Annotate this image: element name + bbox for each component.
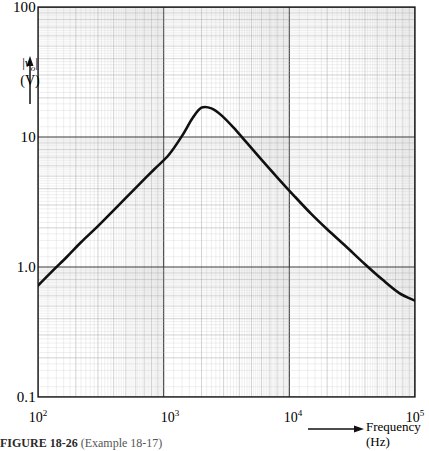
y-axis-title-symbol: |vo|	[2, 56, 58, 73]
x-axis-arrow	[308, 426, 364, 433]
x-axis-title: Frequency (Hz)	[366, 420, 421, 449]
x-tick-mantissa-1e4: 10	[284, 410, 298, 425]
plot-background	[38, 7, 415, 397]
y-axis-title: |vo| (V)	[2, 56, 58, 89]
y-axis-bar-right: |	[35, 55, 38, 70]
x-tick-exponent-1e2: 2	[43, 408, 48, 418]
x-axis-title-text: Frequency	[366, 420, 421, 435]
figure-caption-text: (Example 18-17)	[81, 436, 163, 450]
x-tick-exponent-1e5: 5	[420, 408, 425, 418]
x-tick-label-1e3: 103	[144, 408, 196, 426]
x-tick-exponent-1e3: 3	[175, 408, 180, 418]
figure-caption: FIGURE 18-26 (Example 18-17)	[0, 436, 162, 451]
figure-caption-label: FIGURE 18-26	[0, 436, 78, 450]
y-axis-unit: (V)	[2, 73, 58, 89]
x-tick-mantissa-1e3: 10	[161, 410, 175, 425]
x-tick-label-1e2: 102	[12, 408, 64, 426]
x-tick-mantissa-1e2: 10	[29, 410, 43, 425]
x-axis-unit: (Hz)	[366, 435, 421, 450]
y-tick-label-1: 1.0	[0, 260, 36, 275]
y-tick-label-10: 10	[0, 130, 36, 145]
x-tick-exponent-1e4: 4	[298, 408, 303, 418]
x-tick-label-1e4: 104	[267, 408, 319, 426]
y-tick-label-100: 100	[0, 0, 36, 15]
y-tick-label-0.1: 0.1	[0, 390, 36, 405]
